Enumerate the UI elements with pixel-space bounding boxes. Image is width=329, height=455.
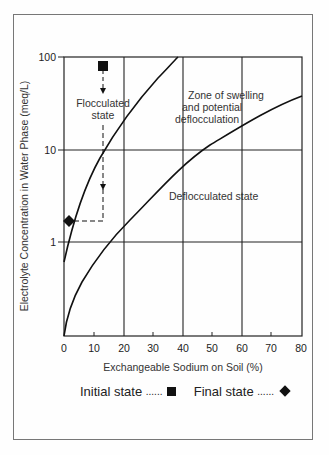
annotation-line: Flocculated	[70, 97, 136, 109]
xtick-label-0: 0	[61, 342, 67, 354]
annotation-line: deflocculation	[175, 113, 264, 125]
arrow-down-icon	[100, 88, 106, 94]
y-axis-label: Electrolyte Concentration in Water Phase…	[18, 81, 30, 312]
xtick-label-80: 80	[295, 342, 307, 354]
annotation-line: Zone of swelling	[175, 89, 264, 101]
arrow-down-icon	[100, 184, 106, 190]
xtick-label-70: 70	[265, 342, 277, 354]
ytick-label-10: 10	[44, 144, 56, 156]
legend-label: Initial state	[80, 384, 142, 399]
xtick-label-60: 60	[236, 342, 248, 354]
transition-path-lower	[70, 125, 103, 221]
legend-dots: ......	[257, 386, 274, 397]
legend-item-initial: Initial state ......	[80, 383, 176, 399]
annotation-line: state	[70, 109, 136, 121]
xtick-label-40: 40	[177, 342, 189, 354]
legend-item-final: Final state ......	[194, 383, 289, 399]
legend-label: Final state	[194, 384, 254, 399]
diamond-marker-icon	[279, 385, 290, 396]
ytick-label-1: 1	[50, 236, 56, 248]
ytick-label-100: 100	[38, 51, 56, 63]
x-axis-label: Exchangeable Sodium on Soil (%)	[103, 361, 262, 373]
annotation-line: and potential	[175, 101, 264, 113]
flocculation-boundary-curve	[64, 57, 178, 262]
annotation-zone-swelling: Zone of swelling and potential defloccul…	[175, 89, 264, 125]
annotation-deflocculated: Deflocculated state	[169, 190, 258, 202]
initial-state-marker	[98, 61, 108, 71]
square-marker-icon	[167, 387, 176, 396]
xtick-label-30: 30	[147, 342, 159, 354]
xtick-label-10: 10	[88, 342, 100, 354]
annotation-line: Deflocculated state	[169, 190, 258, 202]
legend: Initial state ...... Final state ......	[80, 382, 303, 399]
xtick-label-50: 50	[206, 342, 218, 354]
annotation-flocculated: Flocculated state	[70, 97, 136, 121]
legend-dots: ......	[146, 386, 163, 397]
xtick-label-20: 20	[118, 342, 130, 354]
